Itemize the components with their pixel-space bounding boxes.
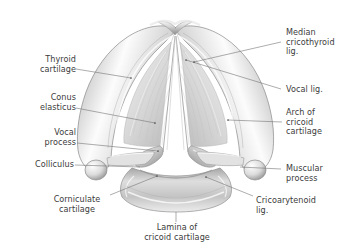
anatomy-figure-page: Thyroid cartilage Conus elasticus Vocal … xyxy=(0,0,351,252)
label-conus-elasticus: Conus elasticus xyxy=(4,93,76,112)
label-cricoarytenoid-lig: Cricoarytenoid lig. xyxy=(256,196,348,215)
label-corniculate-cartilage: Corniculate cartilage xyxy=(38,195,116,214)
label-muscular-process: Muscular process xyxy=(286,164,350,183)
label-arch-of-cricoid-cartilage: Arch of cricoid cartilage xyxy=(286,108,348,137)
cricoid-arch-shape xyxy=(107,152,244,166)
cricoid-lamina-shape xyxy=(120,168,231,212)
label-lamina-of-cricoid-cartilage: Lamina of cricoid cartilage xyxy=(131,223,223,242)
label-vocal-lig: Vocal lig. xyxy=(286,85,348,95)
label-thyroid-cartilage: Thyroid cartilage xyxy=(4,55,76,74)
label-colliculus: Colliculus xyxy=(4,160,74,170)
label-vocal-process: Vocal process xyxy=(4,128,76,147)
label-median-cricothyroid-lig: Median cricothyroid lig. xyxy=(286,28,350,57)
